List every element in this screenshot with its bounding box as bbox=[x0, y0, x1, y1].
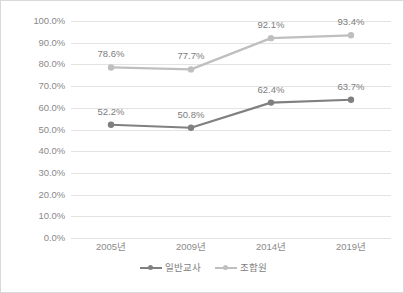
data-label: 77.7% bbox=[178, 50, 205, 61]
legend-marker-icon bbox=[140, 263, 162, 272]
data-label: 63.7% bbox=[338, 81, 365, 92]
y-tick-label: 40.0% bbox=[13, 146, 65, 156]
y-tick-label: 90.0% bbox=[13, 38, 65, 48]
legend-label: 조합원 bbox=[240, 262, 267, 273]
data-label: 78.6% bbox=[98, 48, 125, 59]
data-point-marker bbox=[188, 125, 194, 131]
y-tick-label: 70.0% bbox=[13, 81, 65, 91]
data-label: 92.1% bbox=[258, 19, 285, 30]
legend-item[interactable]: 조합원 bbox=[215, 262, 267, 273]
data-label: 52.2% bbox=[98, 106, 125, 117]
data-point-marker bbox=[188, 66, 194, 72]
y-tick-label: 60.0% bbox=[13, 103, 65, 113]
legend-item[interactable]: 일반교사 bbox=[140, 262, 201, 273]
line-chart: 100.0%90.0%80.0%70.0%60.0%50.0%40.0%30.0… bbox=[0, 0, 404, 293]
data-label: 93.4% bbox=[338, 16, 365, 27]
y-axis: 100.0%90.0%80.0%70.0%60.0%50.0%40.0%30.0… bbox=[9, 21, 65, 238]
y-tick-label: 30.0% bbox=[13, 168, 65, 178]
y-tick-label: 20.0% bbox=[13, 190, 65, 200]
data-label: 62.4% bbox=[258, 84, 285, 95]
data-point-marker bbox=[348, 97, 354, 103]
chart-legend: 일반교사조합원 bbox=[1, 262, 404, 273]
x-tick-label: 2005년 bbox=[96, 241, 126, 253]
series-line bbox=[111, 100, 351, 128]
data-point-marker bbox=[108, 64, 114, 70]
y-tick-label: 10.0% bbox=[13, 211, 65, 221]
data-point-marker bbox=[268, 99, 274, 105]
data-label: 50.8% bbox=[178, 109, 205, 120]
y-tick-label: 0.0% bbox=[13, 233, 65, 243]
legend-label: 일반교사 bbox=[165, 262, 201, 273]
x-axis: 2005년2009년2014년2019년 bbox=[71, 241, 391, 257]
legend-marker-icon bbox=[215, 263, 237, 272]
data-point-marker bbox=[108, 122, 114, 128]
y-tick-label: 50.0% bbox=[13, 125, 65, 135]
y-tick-label: 100.0% bbox=[13, 16, 65, 26]
data-point-marker bbox=[268, 35, 274, 41]
data-point-marker bbox=[348, 32, 354, 38]
x-tick-label: 2009년 bbox=[176, 241, 206, 253]
gridline bbox=[71, 238, 391, 239]
x-tick-label: 2014년 bbox=[256, 241, 286, 253]
plot-area: 52.2%50.8%62.4%63.7%78.6%77.7%92.1%93.4% bbox=[71, 21, 391, 238]
y-tick-label: 80.0% bbox=[13, 59, 65, 69]
series-line bbox=[111, 35, 351, 69]
x-tick-label: 2019년 bbox=[336, 241, 366, 253]
